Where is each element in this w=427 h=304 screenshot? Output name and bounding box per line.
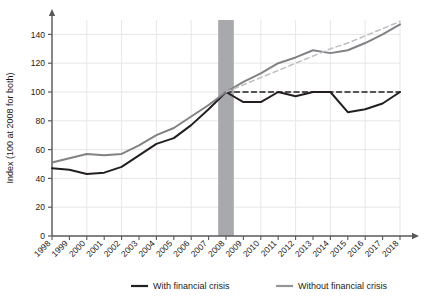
y-tick-label: 140 bbox=[31, 30, 45, 40]
line-chart: 020406080100120140 199819992000200120022… bbox=[0, 0, 427, 304]
x-tick-label: 2007 bbox=[189, 238, 210, 259]
x-tick-label: 1998 bbox=[32, 238, 53, 259]
x-tick-label: 2009 bbox=[223, 238, 244, 259]
y-axis-title: Index (100 at 2008 for both) bbox=[5, 72, 15, 183]
x-tick-label: 2018 bbox=[380, 238, 401, 259]
chart-legend: With financial crisisWithout financial c… bbox=[131, 281, 388, 291]
series-line bbox=[226, 21, 400, 92]
x-tick-label: 2001 bbox=[84, 238, 105, 259]
x-tick-label: 2005 bbox=[154, 238, 175, 259]
x-tick-label: 2002 bbox=[102, 238, 123, 259]
x-tick-label: 1999 bbox=[49, 238, 70, 259]
y-tick-label: 20 bbox=[36, 202, 46, 212]
y-axis: 020406080100120140 bbox=[31, 9, 55, 241]
x-tick-label: 2004 bbox=[136, 238, 157, 259]
x-tick-label: 2000 bbox=[67, 238, 88, 259]
x-tick-label: 2013 bbox=[293, 238, 314, 259]
x-tick-label: 2017 bbox=[363, 238, 384, 259]
crisis-year-band bbox=[218, 20, 234, 236]
legend-label: With financial crisis bbox=[153, 281, 230, 291]
y-tick-label: 60 bbox=[36, 145, 46, 155]
y-axis-title-group: Index (100 at 2008 for both) bbox=[5, 72, 15, 183]
y-tick-label: 80 bbox=[36, 116, 46, 126]
x-tick-label: 2015 bbox=[328, 238, 349, 259]
chart-container: 020406080100120140 199819992000200120022… bbox=[0, 0, 427, 304]
x-tick-label: 2014 bbox=[310, 238, 331, 259]
x-tick-label: 2006 bbox=[171, 238, 192, 259]
x-axis: 1998199920002001200220032004200520062007… bbox=[32, 233, 419, 259]
x-tick-label: 2003 bbox=[119, 238, 140, 259]
x-tick-label: 2010 bbox=[241, 238, 262, 259]
x-tick-label: 2012 bbox=[276, 238, 297, 259]
y-tick-label: 100 bbox=[31, 87, 45, 97]
y-tick-label: 40 bbox=[36, 174, 46, 184]
x-tick-label: 2011 bbox=[259, 238, 279, 258]
legend-label: Without financial crisis bbox=[298, 281, 388, 291]
x-tick-label: 2016 bbox=[345, 238, 366, 259]
x-tick-label: 2008 bbox=[206, 238, 227, 259]
y-tick-label: 120 bbox=[31, 58, 45, 68]
